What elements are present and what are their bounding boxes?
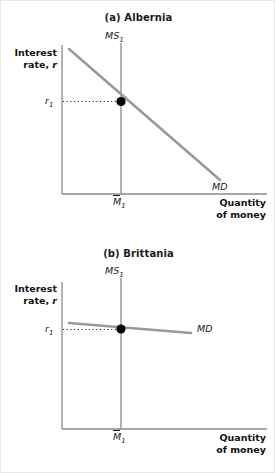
money-demand-curve bbox=[69, 323, 191, 333]
m1-tick-label-brittania: M1 bbox=[113, 431, 126, 445]
ms-label-text: MS bbox=[105, 265, 119, 276]
money-supply-label-brittania: MS1 bbox=[105, 265, 124, 279]
y-axis-title-line2: rate, bbox=[23, 295, 52, 306]
equilibrium-point bbox=[116, 97, 125, 106]
md-label-text: MD bbox=[197, 323, 213, 334]
money-demand-label-brittania: MD bbox=[197, 323, 213, 334]
r1-sub: 1 bbox=[49, 101, 53, 109]
m1-text: M bbox=[113, 196, 121, 207]
y-axis-title-line2: rate, bbox=[23, 59, 52, 70]
ms-label-sub: 1 bbox=[119, 36, 123, 44]
y-axis-title-variable: r bbox=[52, 295, 57, 306]
x-axis-title-line1: Quantity bbox=[219, 197, 266, 208]
r1-tick-label-albernia: r1 bbox=[45, 95, 53, 109]
x-axis-title-brittania: Quantity of money bbox=[171, 432, 266, 455]
y-axis-title-variable: r bbox=[52, 59, 57, 70]
money-demand-label-albernia: MD bbox=[212, 181, 228, 192]
m1-tick-label-albernia: M1 bbox=[113, 196, 126, 210]
y-axis-title-albernia: Interest rate, r bbox=[9, 47, 57, 70]
x-axis-title-line2: of money bbox=[216, 209, 266, 220]
chart-panel-albernia: (a) Albernia Interest rate, r bbox=[1, 1, 275, 237]
money-supply-label-albernia: MS1 bbox=[105, 30, 124, 44]
md-label-text: MD bbox=[212, 181, 228, 192]
r1-tick-label-brittania: r1 bbox=[45, 323, 53, 337]
x-axis-title-albernia: Quantity of money bbox=[171, 197, 266, 220]
ms-label-sub: 1 bbox=[119, 271, 123, 279]
m1-sub: 1 bbox=[121, 202, 125, 210]
money-demand-curve bbox=[69, 49, 220, 180]
y-axis-title-line1: Interest bbox=[14, 283, 57, 294]
x-axis-title-line2: of money bbox=[216, 444, 266, 455]
y-axis-title-line1: Interest bbox=[14, 47, 57, 58]
m1-sub: 1 bbox=[121, 437, 125, 445]
equilibrium-point bbox=[116, 324, 125, 333]
r1-sub: 1 bbox=[49, 329, 53, 337]
y-axis-title-brittania: Interest rate, r bbox=[9, 283, 57, 306]
m1-text: M bbox=[113, 431, 121, 442]
figure-frame: (a) Albernia Interest rate, r bbox=[0, 0, 275, 473]
x-axis-title-line1: Quantity bbox=[219, 432, 266, 443]
chart-panel-brittania: (b) Brittania Interest rate, r bbox=[1, 237, 275, 473]
ms-label-text: MS bbox=[105, 30, 119, 41]
